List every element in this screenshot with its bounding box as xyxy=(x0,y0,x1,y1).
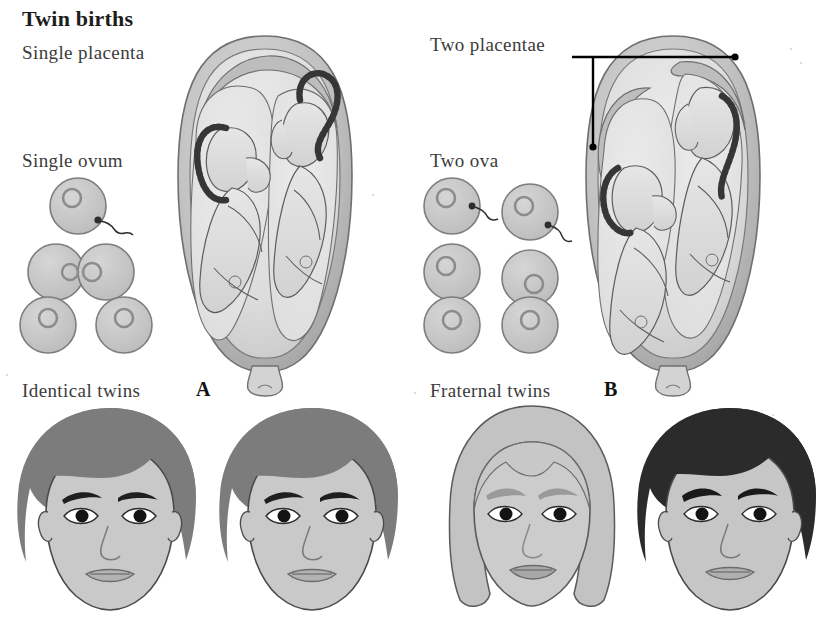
page-title: Twin births xyxy=(22,6,133,32)
ovum-b-row3 xyxy=(424,297,558,353)
uterus-illustration-a xyxy=(178,36,352,396)
ovum-a-stage3 xyxy=(20,297,152,353)
label-single-placenta: Single placenta xyxy=(22,42,145,64)
face-fraternal-twin-2 xyxy=(637,408,816,610)
cervix-a xyxy=(247,366,282,396)
ovum-diagram-b xyxy=(424,178,572,353)
face-identical-twin-2 xyxy=(219,408,398,610)
ovum-a-stage1 xyxy=(50,178,133,235)
ovum-diagram-a xyxy=(20,178,152,353)
pupil-right xyxy=(754,508,767,521)
label-fraternal-twins: Fraternal twins xyxy=(430,380,551,402)
panel-marker-b: B xyxy=(604,378,617,401)
ovum-b-row2 xyxy=(424,244,558,306)
sperm-tail-a1 xyxy=(101,221,133,235)
scan-speck xyxy=(800,62,802,64)
scan-speck xyxy=(414,392,416,394)
leader-dot-placenta-1 xyxy=(731,53,738,60)
label-two-ova: Two ova xyxy=(430,150,498,172)
panel-marker-a: A xyxy=(196,378,210,401)
leader-dot-placenta-2 xyxy=(589,143,596,150)
sperm-head-a1 xyxy=(94,216,101,223)
face-fraternal-twin-1 xyxy=(449,406,614,606)
pupil-right xyxy=(554,508,567,521)
ovum-b-row1 xyxy=(424,178,572,241)
label-two-placentae: Two placentae xyxy=(430,34,545,56)
ovum-a-stage2 xyxy=(28,244,134,300)
twin-births-figure: Twin births Single placenta Single ovum … xyxy=(0,0,835,618)
pupil-left xyxy=(76,510,89,523)
pupil-right xyxy=(134,510,147,523)
scan-speck xyxy=(772,414,774,416)
pupil-left xyxy=(278,510,291,523)
uterus-illustration-b xyxy=(586,36,760,396)
pupil-left xyxy=(500,508,513,521)
pupil-left xyxy=(696,508,709,521)
scan-speck xyxy=(372,194,374,196)
cervix-b xyxy=(655,366,690,396)
pupil-right xyxy=(336,510,349,523)
sperm-head-b2 xyxy=(545,222,552,229)
twin-births-illustration xyxy=(0,0,835,618)
sperm-head-b1 xyxy=(469,203,476,210)
sperm-tail-b2 xyxy=(551,226,572,241)
face-identical-twin-1 xyxy=(17,408,196,610)
label-single-ovum: Single ovum xyxy=(22,150,123,172)
label-identical-twins: Identical twins xyxy=(22,380,140,402)
scan-speck xyxy=(790,48,792,50)
scan-speck xyxy=(6,374,8,376)
